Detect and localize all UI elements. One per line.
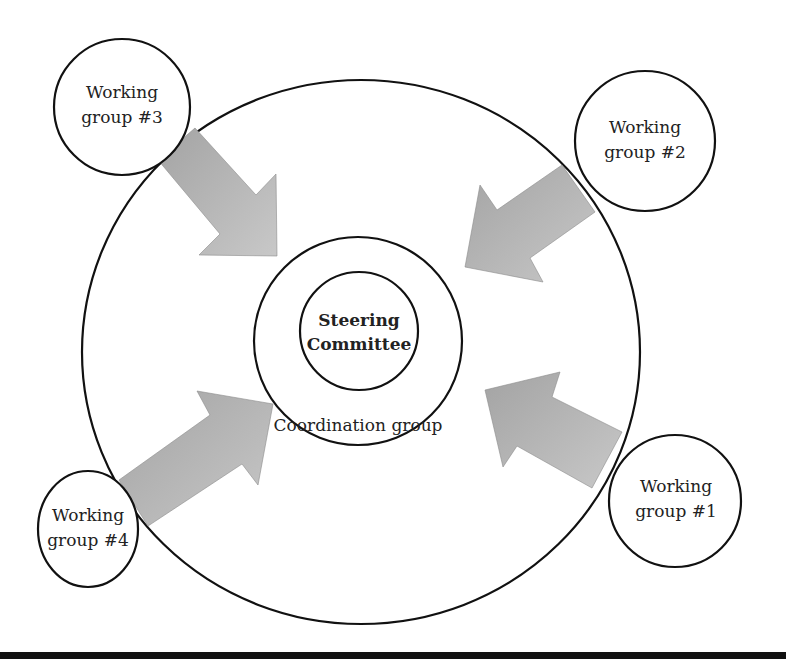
working-group-4-circle (38, 471, 138, 587)
steering-committee-label-line1: Steering (318, 310, 400, 330)
arrow-wg2-to-coordination (465, 165, 595, 282)
steering-committee-label-line2: Committee (307, 334, 412, 354)
working-group-2-label-line1: Working (609, 117, 681, 137)
working-group-3-label-line2: group #3 (81, 107, 163, 127)
organization-diagram: Working group #3 Working group #2 Workin… (0, 0, 786, 660)
working-group-3-label-line1: Working (86, 82, 158, 102)
working-group-1-label-line2: group #1 (635, 501, 717, 521)
steering-committee-ring (300, 272, 418, 390)
working-group-4-label-line1: Working (52, 505, 124, 525)
coordination-group-label: Coordination group (274, 415, 443, 435)
working-group-3: Working group #3 (54, 39, 190, 175)
working-group-4-label-line2: group #4 (47, 530, 129, 550)
working-group-2-label-line2: group #2 (604, 142, 686, 162)
arrow-wg4-to-coordination (119, 391, 273, 526)
working-group-2-circle (575, 71, 715, 211)
working-group-2: Working group #2 (575, 71, 715, 211)
working-group-4: Working group #4 (38, 471, 138, 587)
arrow-wg1-to-coordination (485, 372, 622, 488)
working-group-1-label-line1: Working (640, 476, 712, 496)
working-group-1: Working group #1 (609, 435, 741, 567)
bottom-rule (0, 652, 786, 659)
